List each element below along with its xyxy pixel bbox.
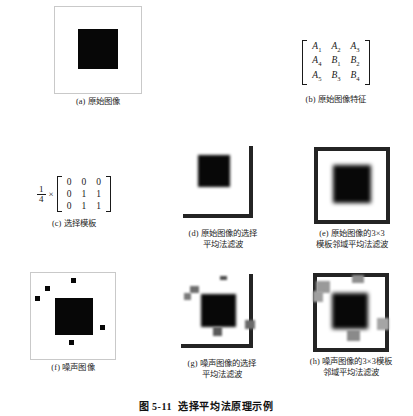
matrix-table: A1 A2 A3 A4 B1 B2 A5 B3 B4 [307,40,364,85]
edge-bottom [181,344,253,348]
panel-f-caption: (f) 噪声图像 [8,363,138,374]
panel-h-caption: (h) 噪声图像的3×3模板 邻域平均法滤波 [290,357,412,378]
edge-bottom [314,220,390,224]
matrix-cell: B4 [346,70,365,85]
black-square [78,29,118,69]
residual-noise [377,318,389,330]
fraction-denominator: 4 [37,194,46,204]
residual-noise [245,320,255,329]
figure-title-text: 选择平均法原理示例 [178,401,273,412]
edge-right [249,146,253,216]
panel-c-formula-art: 1 4 × 0 0 0 0 1 1 [4,176,144,212]
figure-title: 图5-11选择平均法原理示例 [0,398,413,413]
kernel-cell: 0 [62,200,77,212]
figure-container: (a) 原始图像 A1 A2 A3 A4 B1 [0,0,413,416]
panel-b-feature-matrix: A1 A2 A3 A4 B1 B2 A5 B3 B4 [262,40,410,105]
panel-e-caption: (e) 原始图像的3×3 模板邻域平均法滤波 [292,229,412,250]
panel-b-caption: (b) 原始图像特征 [262,95,410,106]
black-square [55,298,93,335]
panel-g-selective-average-noise: (g) 噪声图像的选择 平均法滤波 [160,272,284,380]
edge-top [313,273,389,277]
residual-noise [220,276,227,280]
matrix-row: A5 B3 B4 [307,70,364,85]
panel-f-image [30,272,116,360]
figure-number: 5-11 [152,401,172,412]
edge-bottom [313,348,389,352]
multiply-symbol: × [49,189,54,199]
kernel-row: 0 0 0 [62,176,106,188]
figure-label: 图 [139,401,150,412]
edge-right [386,147,390,224]
panel-h-neighborhood-average-noise: (h) 噪声图像的3×3模板 邻域平均法滤波 [290,272,412,378]
matrix-cell: B3 [326,70,345,85]
panel-f-noise-image: (f) 噪声图像 [8,272,138,374]
fraction-numerator: 1 [37,185,46,194]
residual-noise [352,275,364,283]
panel-c-selection-template: 1 4 × 0 0 0 0 1 1 [4,176,144,230]
matrix-cell: B1 [326,55,345,70]
filtered-square [201,294,236,327]
residual-noise [347,330,360,341]
panel-a-caption: (a) 原始图像 [46,97,150,108]
kernel-row: 0 1 1 [62,188,106,200]
matrix-bracket: A1 A2 A3 A4 B1 B2 A5 B3 B4 [302,40,369,85]
panel-d-selective-average-original: (d) 原始图像的选择 平均法滤波 [164,146,282,250]
kernel-cell: 0 [62,188,77,200]
noise-point [35,296,40,301]
noise-point [100,325,105,330]
noise-point [71,278,76,283]
matrix-cell: A1 [307,40,326,55]
feature-matrix: A1 A2 A3 A4 B1 B2 A5 B3 B4 [262,40,410,85]
kernel-table: 0 0 0 0 1 1 0 1 1 [62,176,106,212]
kernel-row: 0 1 1 [62,200,106,212]
panel-e-neighborhood-average-original: (e) 原始图像的3×3 模板邻域平均法滤波 [292,146,412,250]
kernel-cell: 1 [76,188,91,200]
matrix-cell: B2 [346,55,365,70]
kernel-cell: 1 [91,200,106,212]
noise-point [69,340,74,345]
coefficient-fraction: 1 4 [37,185,46,204]
kernel-cell: 0 [76,176,91,188]
panel-g-image [179,272,265,356]
panel-a-original-image: (a) 原始图像 [46,6,150,108]
matrix-cell: A5 [307,70,326,85]
matrix-cell: A2 [326,40,345,55]
matrix-cell: A4 [307,55,326,70]
edge-right [385,273,389,352]
edge-top [314,147,390,151]
kernel-bracket: 0 0 0 0 1 1 0 1 1 [57,176,111,212]
panel-h-image [311,272,391,354]
panel-d-caption: (d) 原始图像的选择 平均法滤波 [164,229,282,250]
panel-b-matrix-art: A1 A2 A3 A4 B1 B2 A5 B3 B4 [262,40,410,85]
panel-d-image [181,146,265,226]
panel-e-image [312,146,392,226]
edge-right [249,274,253,346]
bracket-right [106,176,111,212]
kernel-formula: 1 4 × 0 0 0 0 1 1 [4,176,144,212]
panel-a-image [54,6,142,94]
residual-noise [184,293,191,300]
kernel-cell: 1 [76,200,91,212]
kernel-cell: 0 [91,176,106,188]
edge-left [314,147,318,224]
kernel-cell: 1 [91,188,106,200]
residual-noise [213,327,222,336]
edge-bottom [183,214,253,218]
kernel-cell: 0 [62,176,77,188]
filtered-square [333,165,371,203]
bracket-right [365,40,370,85]
residual-noise [313,291,323,302]
matrix-row: A4 B1 B2 [307,55,364,70]
panel-c-caption: (c) 选择模板 [4,219,144,230]
panel-g-caption: (g) 噪声图像的选择 平均法滤波 [160,359,284,380]
filtered-square [332,293,368,329]
matrix-row: A1 A2 A3 [307,40,364,55]
filtered-square [198,155,230,187]
noise-point [45,286,50,291]
matrix-cell: A3 [346,40,365,55]
residual-noise [190,286,199,293]
